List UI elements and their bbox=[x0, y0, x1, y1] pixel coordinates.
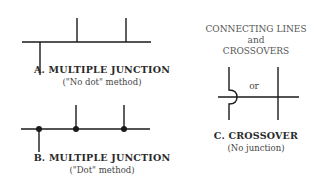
heading-line-3: CROSSOVERS bbox=[205, 46, 306, 57]
crossover-figure bbox=[218, 67, 299, 120]
diagram-a-title: A. MULTIPLE JUNCTION bbox=[34, 64, 170, 75]
junction-dot-icon bbox=[73, 126, 79, 132]
heading-line-2: and bbox=[205, 35, 306, 46]
hop-over-wire bbox=[229, 67, 237, 120]
diagram-c-subtitle: (No junction) bbox=[228, 143, 285, 153]
heading-line-1: CONNECTING LINES bbox=[205, 24, 306, 35]
or-label: or bbox=[249, 81, 259, 91]
diagram-b-subtitle: ("Dot" method) bbox=[69, 165, 134, 175]
diagram-c-title: C. CROSSOVER bbox=[214, 130, 298, 141]
junction-dot-icon bbox=[121, 126, 127, 132]
diagram-a-subtitle: ("No dot" method) bbox=[63, 77, 142, 87]
diagram-b-title: B. MULTIPLE JUNCTION bbox=[34, 152, 171, 163]
junction-dot-icon bbox=[36, 126, 42, 132]
section-heading: CONNECTING LINES and CROSSOVERS bbox=[205, 24, 306, 57]
